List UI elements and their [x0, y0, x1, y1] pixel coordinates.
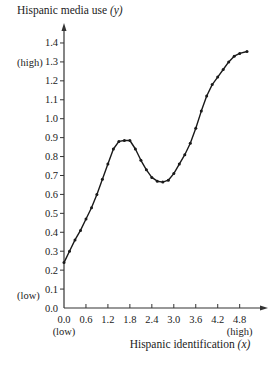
y-tick-label: 0.9	[45, 132, 58, 143]
data-point	[90, 206, 93, 209]
x-tick-label: 4.8	[233, 314, 246, 325]
x-tick-label: 3.0	[167, 314, 180, 325]
data-point	[194, 127, 197, 130]
data-point	[246, 50, 249, 53]
y-axis-arrow-icon	[62, 23, 67, 31]
y-tick-label: 0.7	[45, 170, 58, 181]
data-point	[200, 110, 203, 113]
data-point	[95, 193, 98, 196]
data-point	[216, 76, 219, 79]
data-point	[211, 83, 214, 86]
data-point	[63, 261, 66, 264]
x-high-annotation: (high)	[227, 326, 253, 338]
series-group	[63, 50, 249, 264]
data-point	[117, 140, 120, 143]
data-point	[74, 238, 77, 241]
y-tick-label: 0.3	[45, 246, 58, 257]
data-point	[205, 95, 208, 98]
data-point	[101, 178, 104, 181]
x-ticks: 0.00.61.21.82.43.03.64.24.8	[57, 304, 246, 325]
data-point	[238, 52, 241, 55]
y-tick-label: 0.5	[45, 208, 58, 219]
y-tick-label: 1.4	[45, 37, 59, 48]
x-tick-label: 1.8	[123, 314, 136, 325]
x-tick-label: 4.2	[211, 314, 224, 325]
data-point	[167, 179, 170, 182]
y-tick-label: 1.2	[45, 75, 58, 86]
data-point	[128, 139, 131, 142]
y-tick-label: 0.2	[45, 265, 58, 276]
data-point	[233, 55, 236, 58]
x-axis-title: Hispanic identification (x)	[130, 338, 251, 351]
y-tick-label: 1.0	[45, 113, 58, 124]
y-axis-title-text: Hispanic media use	[17, 4, 107, 17]
y-tick-label: 0.6	[45, 189, 58, 200]
data-point	[68, 250, 71, 253]
x-tick-label: 1.2	[101, 314, 114, 325]
data-point	[112, 148, 115, 151]
y-tick-label: 0.0	[45, 303, 58, 314]
data-point	[183, 153, 186, 156]
y-ticks: 0.00.10.20.30.40.50.60.70.80.91.01.11.21…	[45, 37, 64, 313]
x-tick-label: 0.0	[57, 314, 70, 325]
x-low-annotation: (low)	[53, 326, 76, 338]
data-point	[150, 176, 153, 179]
data-point	[189, 142, 192, 145]
data-point	[134, 148, 137, 151]
data-point	[222, 68, 225, 71]
data-point	[139, 159, 142, 162]
data-point	[161, 181, 164, 184]
line-chart: 0.00.61.21.82.43.03.64.24.8 0.00.10.20.3…	[0, 0, 280, 367]
data-point	[156, 180, 159, 183]
data-point	[106, 163, 109, 166]
data-point	[178, 163, 181, 166]
x-tick-label: 3.6	[189, 314, 202, 325]
y-axis-title-var: (y)	[110, 4, 123, 17]
x-tick-label: 2.4	[145, 314, 159, 325]
y-high-annotation: (high)	[17, 57, 43, 69]
y-tick-label: 1.3	[45, 56, 58, 67]
x-axis-title-text: Hispanic identification	[130, 338, 235, 351]
y-low-annotation: (low)	[17, 290, 40, 302]
series-line	[64, 52, 247, 263]
data-point	[172, 172, 175, 175]
y-tick-label: 1.1	[45, 94, 58, 105]
data-point	[79, 229, 82, 232]
data-point	[85, 218, 88, 221]
x-axis-title-var: (x)	[238, 338, 251, 351]
y-tick-label: 0.1	[45, 284, 58, 295]
y-tick-label: 0.8	[45, 151, 58, 162]
data-point	[145, 168, 148, 171]
x-axis-arrow-icon	[260, 306, 268, 311]
y-tick-label: 0.4	[45, 227, 59, 238]
data-point	[123, 139, 126, 142]
x-tick-label: 0.6	[79, 314, 92, 325]
y-axis-title: Hispanic media use (y)	[17, 4, 123, 17]
data-point	[227, 60, 230, 63]
